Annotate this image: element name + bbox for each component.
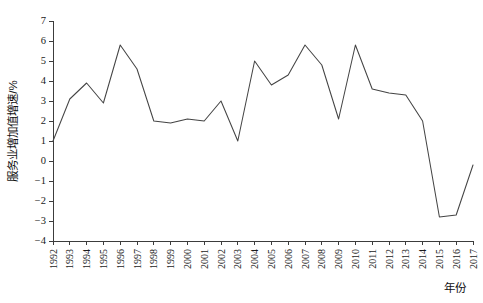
x-axis-tick-label: 1992 xyxy=(48,249,59,269)
y-axis-tick-label: 3 xyxy=(41,95,46,106)
x-axis-tick-label: 2006 xyxy=(283,249,294,269)
x-axis-tick-label: 1995 xyxy=(98,249,109,269)
line-chart-svg: 76543210−1−2−3−4 19921993199419951996199… xyxy=(0,0,483,303)
x-axis-tick-label: 2011 xyxy=(367,249,378,269)
x-axis-tick-label: 1996 xyxy=(115,249,126,269)
y-axis-tick-label: −1 xyxy=(35,175,46,186)
y-axis: 76543210−1−2−3−4 xyxy=(35,15,53,246)
y-axis-tick-label: 2 xyxy=(41,115,46,126)
y-axis-tick-labels: 76543210−1−2−3−4 xyxy=(35,15,47,246)
x-axis-tick-label: 2003 xyxy=(232,249,243,269)
x-axis-tick-label: 2016 xyxy=(451,249,462,269)
y-axis-title: 服务业增加值增速/% xyxy=(6,80,19,181)
x-axis-tick-label: 1999 xyxy=(165,249,176,269)
y-axis-tick-label: 0 xyxy=(41,155,46,166)
x-axis-tick-label: 2015 xyxy=(434,249,445,269)
x-axis: 1992199319941995199619971998199920002001… xyxy=(48,241,479,269)
data-series-line xyxy=(53,45,473,217)
x-axis-tick-label: 2001 xyxy=(199,249,210,269)
x-axis-tick-label: 2007 xyxy=(300,249,311,269)
x-axis-tick-label: 2002 xyxy=(216,249,227,269)
y-axis-ticks xyxy=(49,21,53,241)
x-axis-tick-label: 1997 xyxy=(132,249,143,269)
y-axis-tick-label: −3 xyxy=(35,215,46,226)
x-axis-tick-label: 2004 xyxy=(249,249,260,269)
x-axis-tick-label: 2014 xyxy=(417,249,428,269)
y-axis-tick-label: −4 xyxy=(35,235,47,246)
x-axis-tick-label: 1993 xyxy=(64,249,75,269)
y-axis-tick-label: 4 xyxy=(41,75,47,86)
y-axis-tick-label: 6 xyxy=(41,35,46,46)
x-axis-tick-labels: 1992199319941995199619971998199920002001… xyxy=(48,249,479,269)
x-axis-tick-label: 1994 xyxy=(81,249,92,269)
y-axis-tick-label: 5 xyxy=(41,55,46,66)
x-axis-ticks xyxy=(53,241,473,245)
x-axis-title: 年份 xyxy=(444,281,467,294)
x-axis-tick-label: 2010 xyxy=(350,249,361,269)
x-axis-tick-label: 1998 xyxy=(148,249,159,269)
y-axis-tick-label: 7 xyxy=(41,15,46,26)
chart-container: 76543210−1−2−3−4 19921993199419951996199… xyxy=(0,0,483,303)
x-axis-tick-label: 2008 xyxy=(316,249,327,269)
y-axis-tick-label: −2 xyxy=(35,195,46,206)
x-axis-tick-label: 2013 xyxy=(400,249,411,269)
x-axis-tick-label: 2009 xyxy=(333,249,344,269)
x-axis-tick-label: 2005 xyxy=(266,249,277,269)
y-axis-tick-label: 1 xyxy=(41,135,46,146)
x-axis-tick-label: 2012 xyxy=(384,249,395,269)
x-axis-tick-label: 2000 xyxy=(182,249,193,269)
x-axis-tick-label: 2017 xyxy=(468,249,479,269)
